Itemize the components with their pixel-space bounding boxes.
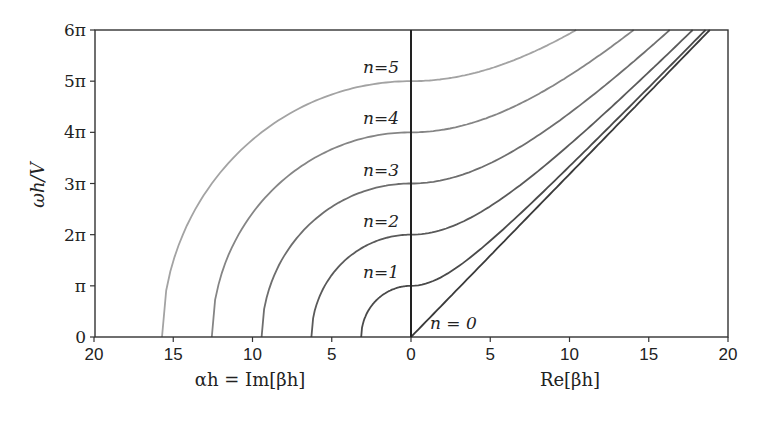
label-n5: n=5: [363, 57, 399, 77]
dispersion-chart: 0π2π3π4π5π6π 201510505101520 n=5 n=4 n=3…: [0, 0, 766, 433]
dispersion-curves: [162, 30, 710, 337]
x-tick-label: 15: [164, 345, 183, 364]
y-axis-label: ωh/V: [27, 160, 48, 207]
x-tick-label: 10: [243, 345, 262, 364]
x-tick-label: 20: [719, 345, 738, 364]
label-n1: n=1: [363, 262, 399, 282]
x-tick-label: 5: [327, 345, 336, 364]
x-tick-label: 0: [406, 345, 415, 364]
curve-n-0: [411, 30, 710, 337]
y-tick-label: 2π: [64, 225, 86, 245]
y-tick-label: 5π: [64, 71, 86, 91]
y-tick-label: 4π: [64, 122, 86, 142]
y-tick-label: π: [75, 276, 86, 296]
label-n0: n = 0: [430, 313, 477, 333]
x-tick-label: 20: [85, 345, 104, 364]
x-axis: 201510505101520: [85, 337, 738, 364]
y-tick-label: 6π: [64, 20, 86, 40]
label-n4: n=4: [363, 108, 399, 128]
label-n3: n=3: [363, 160, 399, 180]
y-tick-label: 0: [75, 327, 86, 347]
x-tick-label: 15: [639, 345, 658, 364]
x-tick-label: 5: [486, 345, 495, 364]
x-axis-label-left: αh = Im[βh]: [195, 369, 306, 390]
label-n2: n=2: [363, 211, 399, 231]
y-tick-label: 3π: [64, 174, 86, 194]
x-tick-label: 10: [560, 345, 579, 364]
x-axis-label-right: Re[βh]: [540, 369, 600, 390]
y-axis: 0π2π3π4π5π6π: [64, 20, 95, 347]
